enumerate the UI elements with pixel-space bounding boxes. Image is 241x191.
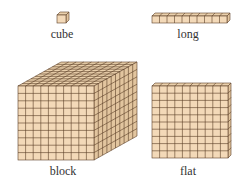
block-piece <box>18 62 137 160</box>
long-label: long <box>158 27 218 42</box>
block-label: block <box>33 164 93 179</box>
flat-label: flat <box>158 164 218 179</box>
cube-label: cube <box>32 27 92 42</box>
cube-piece <box>57 12 69 23</box>
long-piece <box>152 13 230 23</box>
flat-piece <box>152 83 231 158</box>
